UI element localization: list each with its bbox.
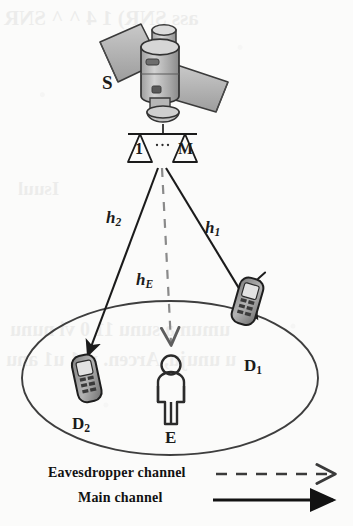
- diagram-vector-layer: [0, 0, 353, 526]
- channel-hE-label: hE: [136, 270, 153, 291]
- figure-canvas: ass SNR) 1 4 ^ ^ SNR umun a sunu 11 0 vi…: [0, 0, 353, 526]
- eavesdropper-label: E: [165, 428, 176, 448]
- channel-hE-subscript: E: [145, 278, 153, 291]
- channel-h2-line: [88, 168, 158, 355]
- channel-h1-label: h1: [205, 218, 220, 239]
- destination-2-subscript: 2: [84, 422, 90, 435]
- channel-h2-subscript: 2: [115, 216, 121, 229]
- legend-main-label: Main channel: [78, 490, 162, 506]
- destination-2-phone-icon: [70, 353, 103, 404]
- satellite-label: S: [102, 72, 113, 94]
- satellite-graphic: [100, 24, 228, 134]
- channel-h1-subscript: 1: [214, 226, 220, 239]
- eavesdropper-person-icon: [158, 356, 184, 425]
- satellite-body: [141, 39, 179, 103]
- destination-2-label: D2: [72, 414, 90, 435]
- legend-eavesdropper-label: Eavesdropper channel: [48, 465, 186, 481]
- channel-hE-line: [162, 168, 171, 343]
- destination-1-label: D1: [244, 356, 262, 377]
- antenna-m-label: M: [178, 140, 193, 158]
- channel-h2-label: h2: [106, 208, 121, 229]
- destination-1-symbol: D: [244, 356, 256, 375]
- destination-1-subscript: 1: [256, 364, 262, 377]
- antenna-1-label: 1: [135, 140, 143, 158]
- destination-2-symbol: D: [72, 414, 84, 433]
- satellite-dish: [147, 98, 179, 134]
